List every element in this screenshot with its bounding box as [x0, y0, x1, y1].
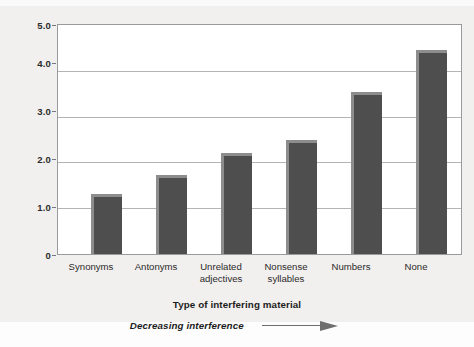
- x-tick-line-1: None: [374, 261, 458, 273]
- y-tick-mark-4: [52, 63, 56, 64]
- page-band-top: [0, 0, 474, 6]
- figure-canvas: Mean number of test items recalled 0 1.0…: [0, 0, 474, 347]
- bar-none: [416, 50, 447, 254]
- gridline-4: [58, 71, 461, 72]
- arrow-shaft: [262, 325, 324, 327]
- y-tick-mark-1: [52, 207, 56, 208]
- y-axis: Mean number of test items recalled 0 1.0…: [0, 0, 57, 290]
- right-arrow-icon: [262, 321, 344, 331]
- annotation-label: Decreasing interference: [130, 320, 244, 331]
- gridline-3: [58, 117, 461, 118]
- y-tick-label-0: 0: [46, 250, 51, 261]
- y-tick-mark-2: [52, 159, 56, 160]
- bar-antonyms: [156, 175, 187, 254]
- plot-area: [57, 24, 462, 255]
- x-tick-label-none: None: [374, 261, 458, 273]
- x-axis-title: Type of interfering material: [0, 299, 474, 310]
- gridline-2: [58, 162, 461, 163]
- bar-unrelated-adjectives: [221, 153, 252, 254]
- y-tick-label-1: 1.0: [37, 202, 51, 213]
- bar-numbers: [351, 92, 382, 254]
- annotation-row: Decreasing interference: [0, 316, 474, 334]
- bar-synonyms: [91, 194, 122, 254]
- y-tick-mark-5: [52, 25, 56, 26]
- y-tick-mark-0: [52, 255, 56, 256]
- arrow-head: [320, 321, 338, 331]
- bar-nonsense-syllables: [286, 140, 317, 254]
- y-tick-label-2: 2.0: [37, 154, 51, 165]
- y-tick-label-3: 3.0: [37, 106, 51, 117]
- y-tick-label-5: 5.0: [37, 20, 51, 31]
- y-tick-mark-3: [52, 111, 56, 112]
- y-tick-label-4: 4.0: [37, 58, 51, 69]
- x-tick-line-2: syllables: [244, 273, 328, 285]
